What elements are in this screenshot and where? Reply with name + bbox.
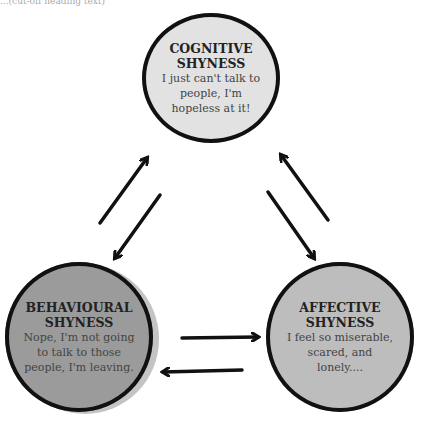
brush-ring [5, 262, 153, 412]
brush-ring [142, 13, 280, 143]
arrow-cog-to-aff [268, 192, 314, 258]
arrow-aff-to-cog [281, 155, 328, 220]
arrow-beh-to-aff [182, 337, 258, 338]
node-affective-shyness: AFFECTIVE SHYNESS I feel so miserable, s… [266, 262, 414, 412]
node-cognitive-shyness: COGNITIVE SHYNESS I just can't talk to p… [142, 13, 280, 143]
brush-ring [266, 262, 414, 412]
arrow-beh-to-cog [100, 158, 147, 223]
arrow-aff-to-beh [163, 370, 242, 372]
node-behavioural-shyness: BEHAVIOURAL SHYNESS Nope, I'm not going … [5, 262, 153, 412]
arrow-cog-to-beh [115, 195, 160, 258]
